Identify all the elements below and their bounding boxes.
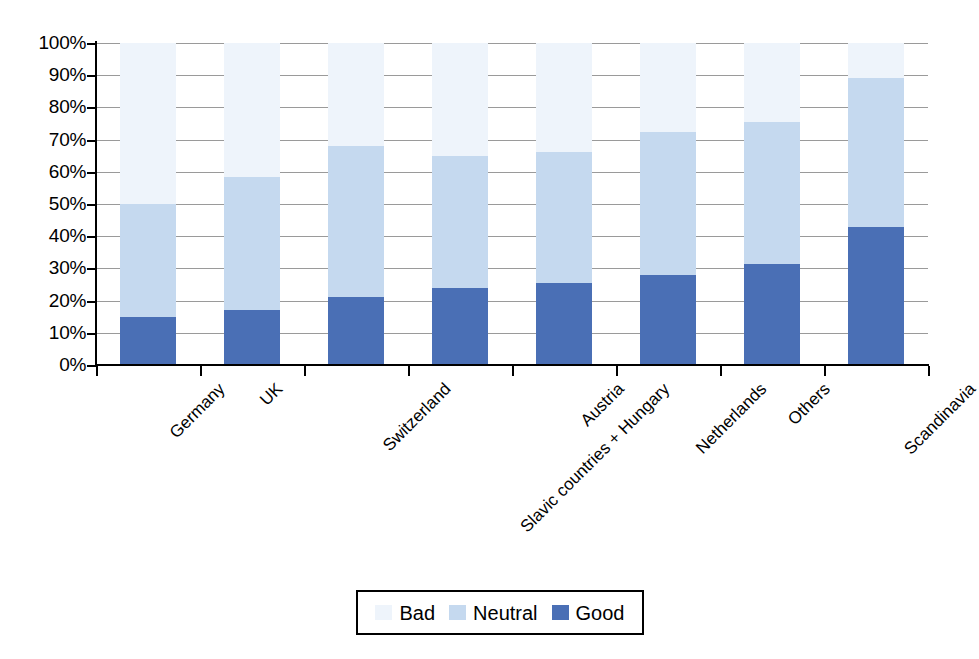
x-axis-label: Switzerland: [380, 380, 454, 454]
legend-swatch-good: [552, 605, 569, 620]
x-tick-mark: [928, 366, 930, 376]
bar-segment-neutral: [328, 146, 384, 297]
x-tick-mark: [824, 366, 826, 376]
chart-legend: BadNeutralGood: [356, 590, 644, 635]
y-axis-labels: 100%90%80%70%60%50%40%30%20%10%0%: [0, 43, 86, 365]
y-axis-line: [95, 41, 97, 367]
bar-segment-neutral: [536, 152, 592, 282]
gridline: [96, 75, 928, 76]
bar-group: [848, 43, 904, 365]
bar-segment-bad: [120, 43, 176, 204]
bar-group: [224, 43, 280, 365]
y-tick-label: 60%: [49, 162, 86, 181]
x-tick-mark: [200, 366, 202, 376]
gridline: [96, 140, 928, 141]
bar-segment-good: [848, 227, 904, 365]
y-tick-label: 50%: [49, 194, 86, 213]
gridline: [96, 204, 928, 205]
bar-segment-neutral: [224, 177, 280, 311]
bar-segment-good: [432, 288, 488, 365]
bar-segment-bad: [432, 43, 488, 156]
bar-segment-neutral: [848, 78, 904, 226]
y-tick-label: 80%: [49, 97, 86, 116]
gridline: [96, 333, 928, 334]
y-tick-label: 40%: [49, 226, 86, 245]
bar-group: [640, 43, 696, 365]
legend-item: Neutral: [449, 603, 537, 623]
y-tick-label: 90%: [49, 65, 86, 84]
x-tick-mark: [96, 366, 98, 376]
bar-segment-good: [536, 283, 592, 365]
legend-swatch-neutral: [449, 605, 466, 620]
gridline: [96, 236, 928, 237]
legend-label: Neutral: [473, 603, 537, 623]
y-tick-label: 10%: [49, 323, 86, 342]
x-axis-label: Netherlands: [693, 380, 770, 457]
legend-label: Good: [576, 603, 625, 623]
y-tick-label: 20%: [49, 291, 86, 310]
x-tick-mark: [304, 366, 306, 376]
legend-item: Good: [552, 603, 625, 623]
y-tick-label: 100%: [39, 33, 86, 52]
bar-group: [536, 43, 592, 365]
bar-segment-bad: [224, 43, 280, 177]
bar-segment-good: [328, 297, 384, 365]
bar-group: [432, 43, 488, 365]
bar-segment-good: [120, 317, 176, 365]
bar-segment-good: [224, 310, 280, 365]
gridline: [96, 43, 928, 44]
bar-segment-neutral: [640, 132, 696, 275]
x-axis-label: UK: [257, 380, 286, 409]
x-axis-label: Germany: [166, 380, 227, 441]
gridline: [96, 107, 928, 108]
plot-area: [96, 43, 928, 365]
bar-segment-neutral: [120, 204, 176, 317]
bar-segment-neutral: [432, 156, 488, 288]
bar-segment-good: [640, 275, 696, 365]
gridline: [96, 172, 928, 173]
y-tick-label: 30%: [49, 258, 86, 277]
legend-swatch-bad: [375, 605, 392, 620]
legend-item: Bad: [375, 603, 435, 623]
bar-group: [328, 43, 384, 365]
bar-segment-neutral: [744, 122, 800, 264]
gridline: [96, 301, 928, 302]
bar-segment-bad: [640, 43, 696, 132]
x-axis-label: Others: [785, 380, 833, 428]
legend-label: Bad: [399, 603, 435, 623]
bar-group: [120, 43, 176, 365]
bar-segment-bad: [328, 43, 384, 146]
x-tick-mark: [616, 366, 618, 376]
gridline: [96, 268, 928, 269]
y-tick-label: 70%: [49, 130, 86, 149]
y-tick-label: 0%: [59, 355, 86, 374]
x-tick-mark: [512, 366, 514, 376]
bar-segment-good: [744, 264, 800, 365]
bar-group: [744, 43, 800, 365]
bar-segment-bad: [848, 43, 904, 78]
x-axis-label: Scandinavia: [901, 380, 979, 458]
x-tick-mark: [408, 366, 410, 376]
x-tick-mark: [720, 366, 722, 376]
bar-segment-bad: [536, 43, 592, 152]
bar-segment-bad: [744, 43, 800, 122]
